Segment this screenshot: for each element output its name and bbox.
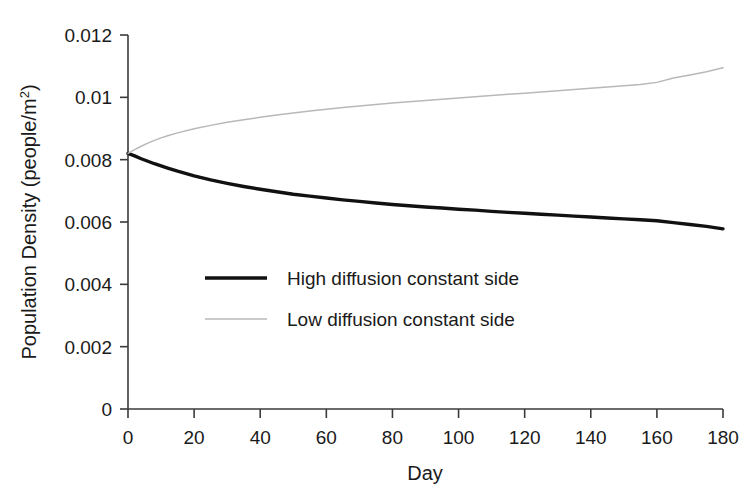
y-tick-label: 0.004 xyxy=(64,274,112,295)
y-axis-ticks: 00.0020.0040.0060.0080.010.012 xyxy=(64,25,128,420)
x-tick-label: 20 xyxy=(184,427,205,448)
x-axis-title: Day xyxy=(407,462,443,484)
y-tick-label: 0 xyxy=(101,399,112,420)
series-line-high-diffusion xyxy=(128,153,723,228)
legend-label-1: Low diffusion constant side xyxy=(287,309,515,330)
x-tick-label: 160 xyxy=(641,427,673,448)
x-tick-label: 120 xyxy=(509,427,541,448)
y-axis-title-superscript: 2 xyxy=(17,91,32,98)
y-axis-title-tail: ) xyxy=(18,84,40,91)
y-tick-label: 0.01 xyxy=(75,87,112,108)
x-tick-label: 60 xyxy=(316,427,337,448)
y-tick-label: 0.006 xyxy=(64,212,112,233)
y-tick-label: 0.012 xyxy=(64,25,112,46)
y-axis-title-base: Population Density (people/m xyxy=(18,98,40,359)
x-tick-label: 140 xyxy=(575,427,607,448)
series-line-low-diffusion xyxy=(128,68,723,154)
y-tick-label: 0.008 xyxy=(64,150,112,171)
chart-figure: 00.0020.0040.0060.0080.010.012 020406080… xyxy=(0,0,753,501)
svg-text:Population Density (people/m2): Population Density (people/m2) xyxy=(17,84,41,359)
line-chart: 00.0020.0040.0060.0080.010.012 020406080… xyxy=(0,0,753,501)
y-tick-label: 0.002 xyxy=(64,337,112,358)
x-axis-ticks: 020406080100120140160180 xyxy=(123,409,739,448)
x-tick-label: 80 xyxy=(382,427,403,448)
x-tick-label: 0 xyxy=(123,427,134,448)
x-tick-label: 100 xyxy=(443,427,475,448)
x-tick-label: 180 xyxy=(707,427,739,448)
data-series-group xyxy=(128,68,723,229)
y-axis-title: Population Density (people/m2) xyxy=(17,84,41,359)
legend-label-0: High diffusion constant side xyxy=(287,268,519,289)
chart-legend: High diffusion constant sideLow diffusio… xyxy=(205,268,519,330)
x-tick-label: 40 xyxy=(250,427,271,448)
axes xyxy=(128,35,723,409)
